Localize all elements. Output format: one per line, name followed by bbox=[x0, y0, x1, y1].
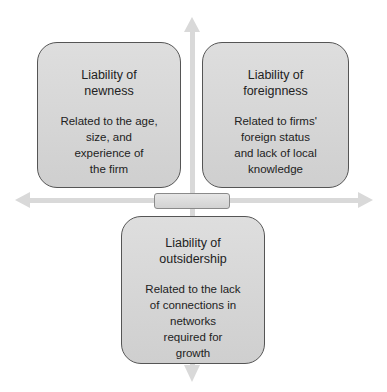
box-title: Liability of newness bbox=[38, 67, 180, 99]
desc-line: Related to the lack bbox=[122, 281, 264, 297]
box-description: Related to the lack of connections in ne… bbox=[122, 281, 264, 361]
desc-line: networks bbox=[122, 313, 264, 329]
box-liability-of-newness: Liability of newness Related to the age,… bbox=[37, 42, 181, 188]
box-description: Related to firms' foreign status and lac… bbox=[203, 113, 348, 177]
center-bar bbox=[154, 193, 230, 209]
title-line: newness bbox=[38, 83, 180, 99]
desc-line: foreign status bbox=[203, 129, 348, 145]
arrow-up-icon bbox=[184, 17, 200, 32]
desc-line: required for bbox=[122, 329, 264, 345]
desc-line: experience of bbox=[38, 145, 180, 161]
box-title: Liability of foreignness bbox=[203, 67, 348, 99]
box-liability-of-outsidership: Liability of outsidership Related to the… bbox=[121, 216, 265, 364]
box-liability-of-foreignness: Liability of foreignness Related to firm… bbox=[202, 42, 349, 188]
title-line: Liability of bbox=[122, 235, 264, 251]
desc-line: size, and bbox=[38, 129, 180, 145]
desc-line: and lack of local bbox=[203, 145, 348, 161]
desc-line: of connections in bbox=[122, 297, 264, 313]
title-line: outsidership bbox=[122, 251, 264, 267]
title-line: foreignness bbox=[203, 83, 348, 99]
desc-line: knowledge bbox=[203, 161, 348, 177]
title-line: Liability of bbox=[203, 67, 348, 83]
desc-line: Related to the age, bbox=[38, 113, 180, 129]
desc-line: Related to firms' bbox=[203, 113, 348, 129]
box-title: Liability of outsidership bbox=[122, 235, 264, 267]
arrow-right-icon bbox=[358, 192, 373, 208]
title-line: Liability of bbox=[38, 67, 180, 83]
arrow-left-icon bbox=[15, 192, 30, 208]
desc-line: the firm bbox=[38, 161, 180, 177]
desc-line: growth bbox=[122, 345, 264, 361]
box-description: Related to the age, size, and experience… bbox=[38, 113, 180, 177]
arrow-down-icon bbox=[184, 365, 200, 382]
